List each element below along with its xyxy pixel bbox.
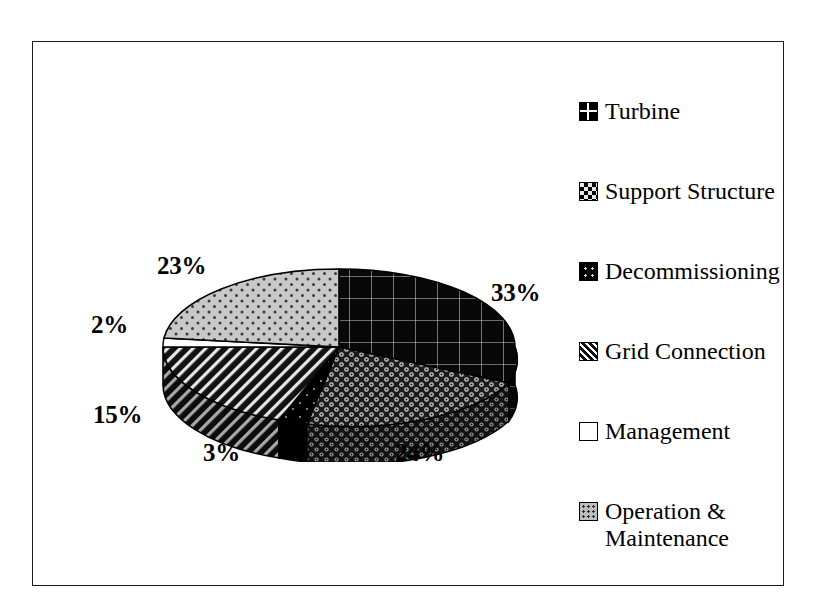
legend-label-turbine: Turbine [605, 98, 680, 125]
dark-dots-swatch-icon [579, 262, 598, 281]
legend-item-decommissioning[interactable]: Decommissioning [579, 258, 813, 285]
legend-item-support-structure[interactable]: Support Structure [579, 178, 813, 205]
legend-label-operation-maintenance: Operation & Maintenance [605, 498, 729, 552]
data-label-decommissioning: 3% [203, 440, 240, 465]
chart-legend: Turbine Support Structure Decommissionin… [579, 98, 813, 552]
legend-label-support-structure: Support Structure [605, 178, 775, 205]
empty-swatch-icon [579, 422, 598, 441]
data-label-turbine: 33% [491, 280, 540, 305]
checker-swatch-icon [579, 182, 598, 201]
legend-item-grid-connection[interactable]: Grid Connection [579, 338, 813, 365]
data-label-operation-maintenance: 23% [157, 253, 206, 278]
data-label-support-structure: 24% [395, 440, 444, 465]
grid-cross-swatch-icon [579, 102, 598, 121]
pie-slice-operation-maintenance [164, 269, 339, 347]
chart-frame: 23% 2% 15% 3% 24% 33% Turbine Support St… [32, 41, 784, 586]
diagonal-swatch-icon [579, 342, 598, 361]
legend-label-decommissioning: Decommissioning [605, 258, 780, 285]
legend-item-management[interactable]: Management [579, 418, 813, 445]
legend-item-turbine[interactable]: Turbine [579, 98, 813, 125]
legend-item-operation-maintenance[interactable]: Operation & Maintenance [579, 498, 813, 552]
pie-side-decommissioning [279, 420, 307, 462]
data-label-management: 2% [91, 312, 128, 337]
light-dots-swatch-icon [579, 502, 598, 521]
legend-label-management: Management [605, 418, 730, 445]
data-label-grid-connection: 15% [93, 402, 142, 427]
legend-label-grid-connection: Grid Connection [605, 338, 766, 365]
